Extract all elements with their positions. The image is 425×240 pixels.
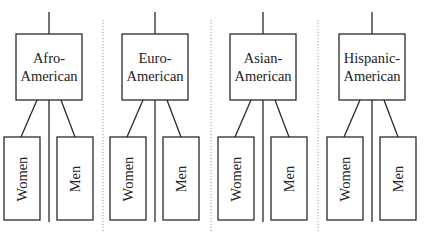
group-label-afro-american: Afro- American	[16, 34, 82, 100]
hispanic-american-women-connector	[344, 100, 360, 137]
group-label-asian-american: Asian- American	[230, 34, 296, 100]
euro-american-men-connector	[167, 100, 181, 137]
afro-american-men-connector	[61, 100, 75, 137]
group-label-euro-american: Euro- American	[122, 34, 188, 100]
asian-american-women-label: Women	[228, 157, 245, 202]
asian-american-women-connector	[235, 100, 251, 137]
euro-american-women-label: Women	[120, 157, 137, 202]
hispanic-american-men-label: Men	[390, 166, 407, 193]
group-label-text: Euro- American	[126, 49, 183, 85]
group-label-hispanic-american: Hispanic- American	[339, 34, 405, 100]
afro-american-women-connector	[21, 100, 37, 137]
group-label-text: Asian- American	[234, 49, 291, 85]
euro-american-women-connector	[127, 100, 143, 137]
afro-american-women-label: Women	[14, 157, 31, 202]
group-label-text: Hispanic- American	[343, 49, 400, 85]
afro-american-men-label: Men	[67, 166, 84, 193]
hispanic-american-women-label: Women	[337, 157, 354, 202]
asian-american-men-label: Men	[281, 166, 298, 193]
hispanic-american-men-connector	[384, 100, 398, 137]
group-label-text: Afro- American	[20, 49, 77, 85]
euro-american-men-label: Men	[173, 166, 190, 193]
asian-american-men-connector	[275, 100, 289, 137]
